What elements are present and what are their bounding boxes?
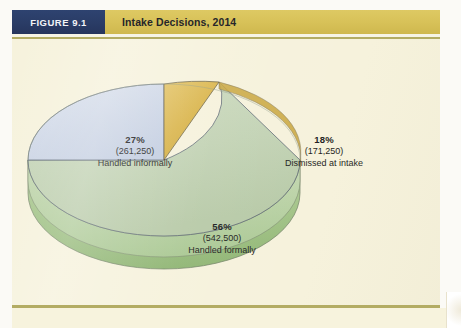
pie-label-dismissed-at-intake: 18% (171,250) Dismissed at intake [259, 134, 389, 169]
pie-label-name: Handled informally [70, 158, 200, 170]
pie-label-percent: 18% [259, 134, 389, 146]
pie-label-count: (171,250) [259, 146, 389, 158]
page-corner-curl [446, 292, 461, 328]
pie-chart [12, 39, 440, 305]
pie-label-percent: 56% [142, 221, 302, 233]
pie-label-count: (261,250) [70, 146, 200, 158]
footer-strip [12, 308, 461, 328]
figure-header: FIGURE 9.1 Intake Decisions, 2014 [12, 10, 440, 34]
figure-page: FIGURE 9.1 Intake Decisions, 2014 [0, 0, 461, 328]
pie-label-name: Dismissed at intake [259, 158, 389, 170]
pie-label-name: Handled formally [142, 245, 302, 257]
pie-label-handled-informally: 27% (261,250) Handled informally [70, 134, 200, 169]
figure-number-block: FIGURE 9.1 [12, 10, 105, 34]
figure-number-label: FIGURE 9.1 [30, 17, 87, 28]
pie-label-percent: 27% [70, 134, 200, 146]
pie-label-handled-formally: 56% (542,500) Handled formally [142, 221, 302, 256]
pie-chart-svg [12, 39, 440, 305]
figure-title: Intake Decisions, 2014 [105, 16, 236, 28]
figure-content-panel: 27% (261,250) Handled informally 18% (17… [12, 39, 440, 305]
pie-label-count: (542,500) [142, 233, 302, 245]
figure-title-bar: Intake Decisions, 2014 [105, 10, 440, 34]
